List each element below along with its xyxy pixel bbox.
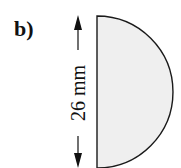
panel-label: b)	[14, 16, 34, 41]
diagram-canvas: b) 26 mm	[0, 0, 181, 168]
arrow-up-icon	[74, 15, 82, 30]
arrow-down-icon	[74, 153, 82, 168]
dimension-label: 26 mm	[67, 65, 89, 122]
semicircle-shape	[97, 16, 173, 168]
